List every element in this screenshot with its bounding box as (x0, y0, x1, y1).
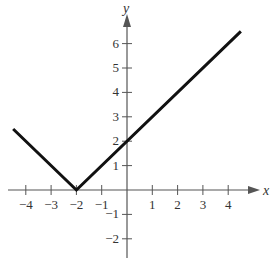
x-tick-label: −4 (19, 197, 33, 212)
x-tick-label: −3 (44, 197, 58, 212)
chart-plot: xy−4−3−2−11234−2−1123456 (0, 0, 271, 263)
y-axis-label: y (121, 1, 130, 16)
y-tick-label: 4 (113, 84, 120, 99)
x-tick-label: −2 (69, 197, 83, 212)
x-tick-label: 3 (200, 197, 207, 212)
y-tick-label: 1 (113, 158, 120, 173)
y-tick-label: 5 (113, 60, 120, 75)
x-tick-label: 1 (149, 197, 156, 212)
y-tick-label: −2 (105, 231, 119, 246)
x-axis-label: x (262, 183, 270, 198)
x-tick-label: 2 (174, 197, 181, 212)
y-tick-label: 3 (113, 109, 120, 124)
y-tick-label: −1 (105, 206, 119, 221)
x-axis-arrow (248, 186, 260, 194)
y-tick-label: 2 (113, 133, 120, 148)
x-tick-label: 4 (225, 197, 232, 212)
y-tick-label: 6 (113, 36, 120, 51)
